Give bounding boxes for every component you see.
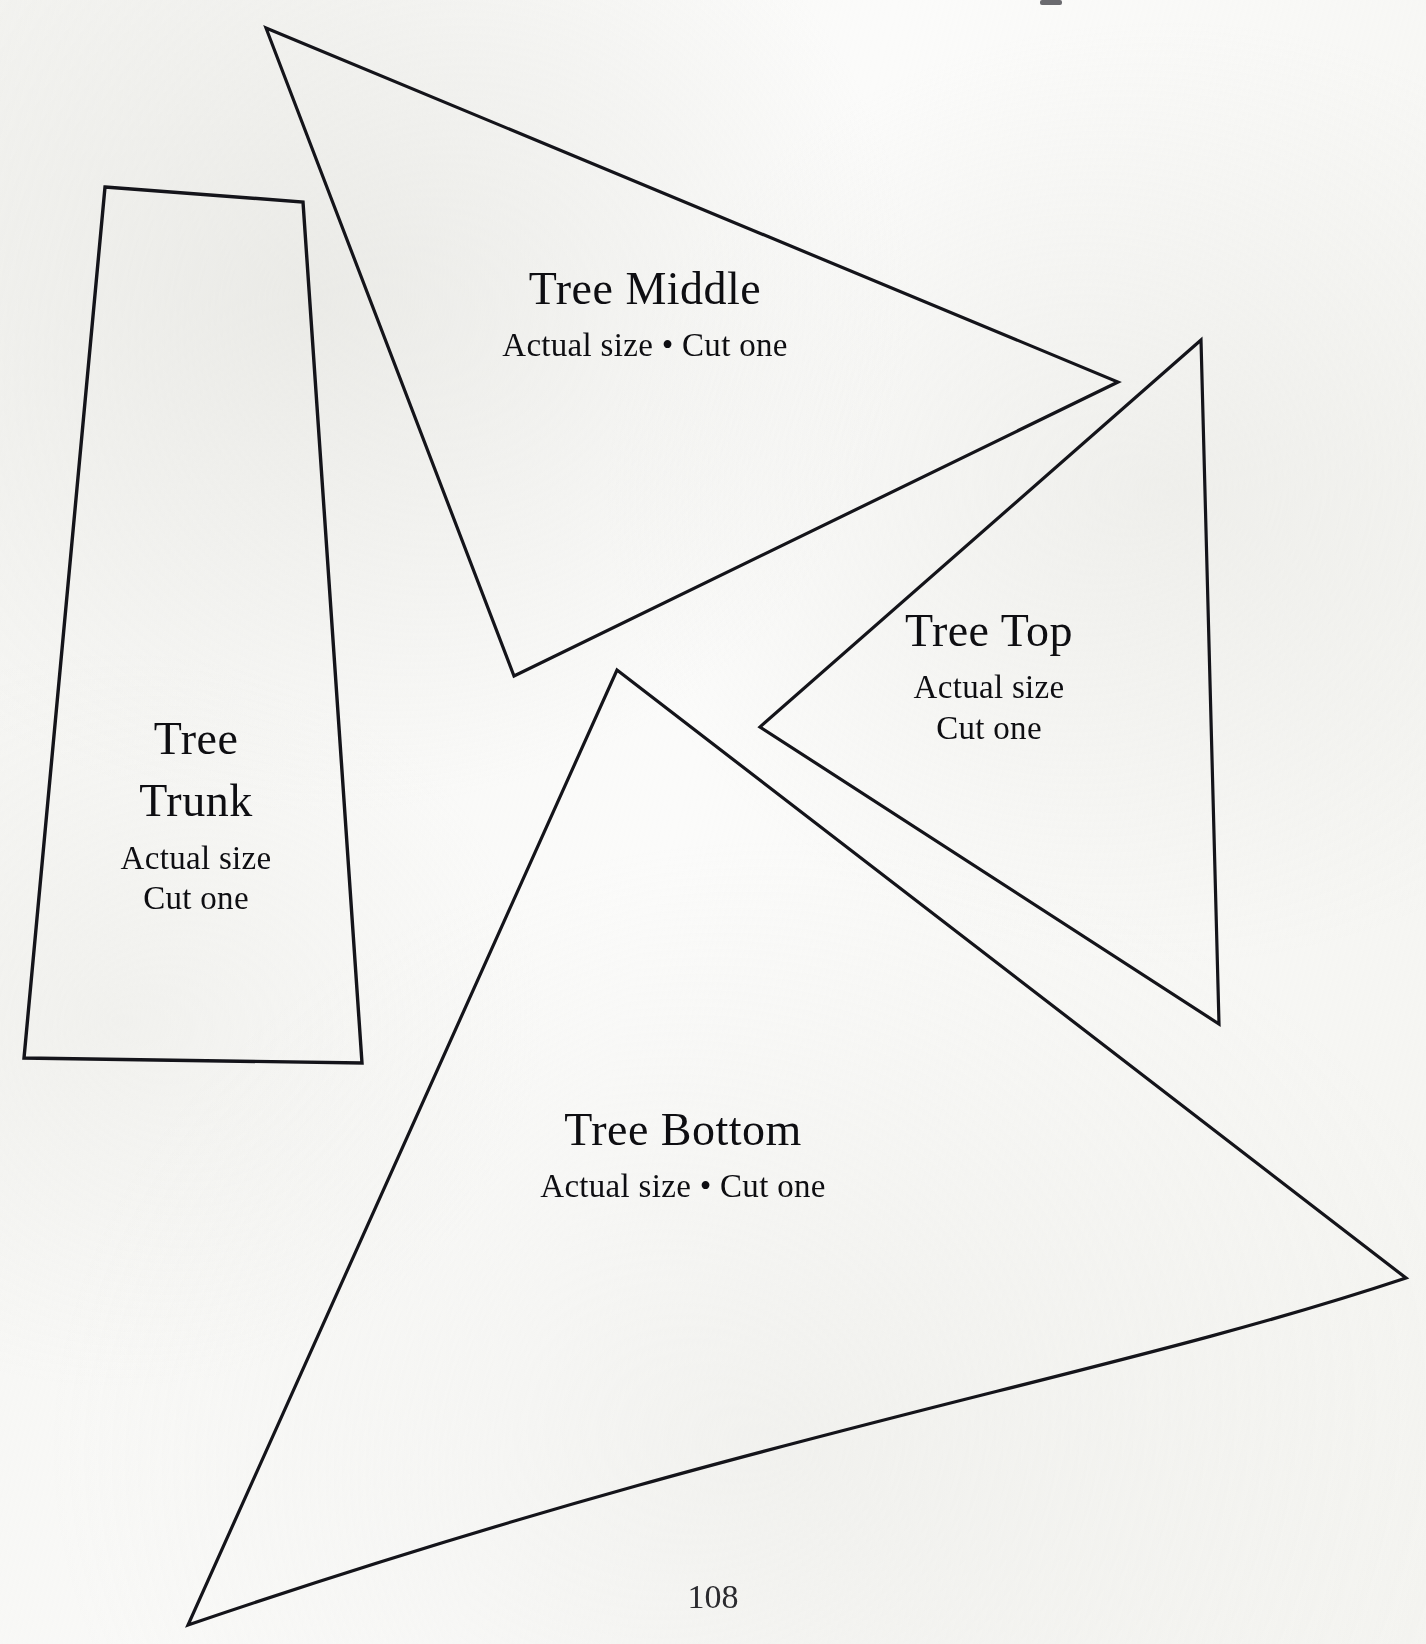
tree-top-subtitle-line-2: Cut one bbox=[905, 709, 1073, 748]
label-tree-bottom: Tree Bottom Actual size • Cut one bbox=[540, 1103, 825, 1206]
label-tree-trunk: Tree Trunk Actual size Cut one bbox=[121, 712, 272, 918]
pattern-page: Tree Middle Actual size • Cut one Tree T… bbox=[0, 0, 1426, 1644]
label-tree-top: Tree Top Actual size Cut one bbox=[905, 604, 1073, 748]
tree-trunk-subtitle-line-1: Actual size bbox=[121, 839, 272, 878]
tree-middle-subtitle-line-1: Actual size • Cut one bbox=[502, 326, 787, 365]
tree-bottom-title: Tree Bottom bbox=[540, 1103, 825, 1157]
tree-trunk-title-line-1: Tree bbox=[121, 712, 272, 766]
tree-top-subtitle-line-1: Actual size bbox=[905, 668, 1073, 707]
tree-middle-title: Tree Middle bbox=[502, 262, 787, 316]
tree-trunk-title-line-2: Trunk bbox=[121, 774, 272, 828]
page-number: 108 bbox=[0, 1578, 1426, 1616]
tree-trunk-outline bbox=[24, 187, 362, 1063]
scan-artifact-mark bbox=[1040, 0, 1062, 5]
tree-top-title: Tree Top bbox=[905, 604, 1073, 658]
label-tree-middle: Tree Middle Actual size • Cut one bbox=[502, 262, 787, 365]
tree-trunk-subtitle-line-2: Cut one bbox=[121, 879, 272, 918]
tree-bottom-subtitle-line-1: Actual size • Cut one bbox=[540, 1167, 825, 1206]
